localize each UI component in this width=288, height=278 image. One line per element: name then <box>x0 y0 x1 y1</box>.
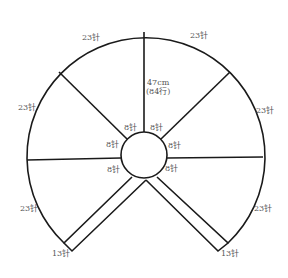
strip-left <box>64 177 146 251</box>
outer-label: 23针 <box>190 30 208 40</box>
outer-label: 23针 <box>254 203 272 213</box>
strip-right <box>146 177 228 251</box>
length-label: 47cm <box>147 78 170 87</box>
strip-end-label: 13针 <box>52 248 70 258</box>
inner-label: 8针 <box>168 140 181 150</box>
outer-label: 23针 <box>18 102 36 112</box>
inner-label: 8针 <box>150 122 163 132</box>
neck-circle <box>121 132 167 178</box>
knitting-pattern-diagram: 47cm (84行) 23针 23针 23针 23针 23针 23针 8针 8针… <box>0 0 288 278</box>
outer-label: 23针 <box>20 203 38 213</box>
outer-arc <box>27 38 265 243</box>
inner-label: 8针 <box>107 164 120 174</box>
outer-label: 23针 <box>82 32 100 42</box>
outer-label: 23针 <box>256 105 274 115</box>
strip-end-label: 13针 <box>221 248 239 258</box>
rows-label: (84行) <box>146 86 170 96</box>
seam-left <box>27 158 121 160</box>
seam-upper-right <box>161 72 230 139</box>
seam-upper-left <box>59 72 127 139</box>
inner-label: 8针 <box>165 163 178 173</box>
inner-label: 8针 <box>106 139 119 149</box>
seam-right <box>167 157 263 158</box>
inner-label: 8针 <box>124 122 137 132</box>
